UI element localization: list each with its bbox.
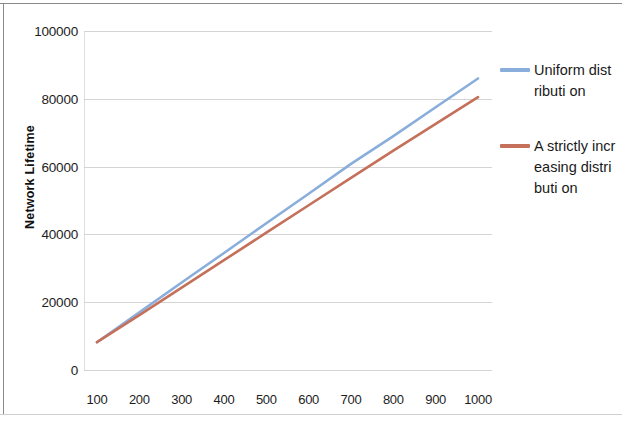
series-line [97,78,478,342]
figure-border-top [0,3,622,4]
y-axis-tick-label: 0 [8,363,78,378]
y-axis-tick-label: 20000 [8,295,78,310]
x-axis-tick-label: 1000 [448,392,508,407]
y-axis-tick-label: 100000 [8,24,78,39]
y-axis-ticks: 020000400006000080000100000 [0,31,78,370]
y-axis-tick-label: 40000 [8,227,78,242]
gridline [84,370,492,371]
legend-entry[interactable]: Uniform distributi on [500,60,618,102]
line-swatch-blue [500,68,530,72]
series-line [97,97,478,342]
legend-entry[interactable]: A strictly increasing distributi on [500,136,618,199]
legend-entry-label: Uniform distributi on [534,60,616,102]
x-axis-ticks: 1002003004005006007008009001000 [84,392,492,414]
y-axis-tick-label: 60000 [8,159,78,174]
legend-entry-label: A strictly increasing distributi on [534,136,616,199]
line-swatch-red [500,144,530,148]
plot-area [84,31,492,370]
series-lines [84,31,492,370]
chart-legend: Uniform distributi onA strictly increasi… [500,60,618,233]
y-axis-tick-label: 80000 [8,91,78,106]
figure-border-bottom [0,414,622,415]
chart-figure: Network Lifetime 02000040000600008000010… [0,0,622,423]
